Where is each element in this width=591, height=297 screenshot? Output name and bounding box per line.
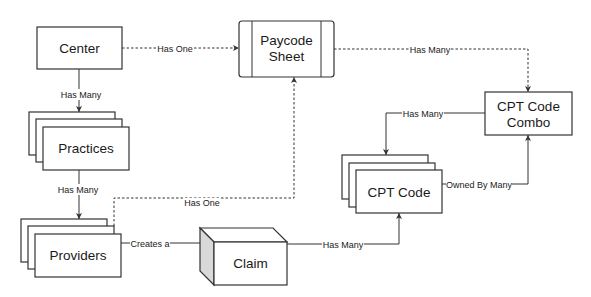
edge-providers-has-one-paycode: Has One [114,77,294,226]
node-label-line2: Combo [507,115,551,130]
edge-cptcode-owned-by-many-combo: Owned By Many [442,135,528,190]
node-label: Providers [49,248,106,263]
node-paycode-sheet[interactable]: Paycode Sheet [239,21,334,77]
node-center[interactable]: Center [37,27,122,69]
edge-center-has-many-practices: Has Many [61,69,102,112]
node-practices[interactable]: Practices [29,112,129,170]
edge-label: Has Many [61,90,102,100]
node-providers[interactable]: Providers [21,219,121,277]
edge-claim-has-many-cptcode: Has Many [287,213,399,250]
diagram-canvas: Has One Has Many Has Many Has One Create… [0,0,591,297]
edge-label: Has Many [58,185,99,195]
node-cpt-code[interactable]: CPT Code [342,155,442,213]
edge-label: Has One [184,198,220,208]
edge-combo-has-many-cptcode: Has Many [386,108,485,155]
node-label-line2: Sheet [269,49,305,64]
edge-center-has-one-paycode: Has One [122,43,239,54]
edge-label: Has Many [410,45,451,55]
edge-label: Has One [157,44,193,54]
node-label-line1: Paycode [260,33,313,48]
node-cpt-code-combo[interactable]: CPT Code Combo [485,92,572,135]
node-label: Practices [58,141,114,156]
node-label: Center [59,41,100,56]
node-label: Claim [233,256,268,271]
edge-label: Has Many [323,240,364,250]
edge-practices-has-many-providers: Has Many [57,170,99,219]
edge-label: Owned By Many [446,180,513,190]
node-label-line1: CPT Code [497,99,560,114]
edge-label: Creates a [130,239,169,249]
edge-label: Has Many [403,109,444,119]
edge-providers-creates-claim: Creates a [121,238,213,249]
edge-paycode-has-many-combo: Has Many [334,44,528,92]
node-label: CPT Code [368,185,431,200]
node-claim[interactable]: Claim [200,228,287,285]
